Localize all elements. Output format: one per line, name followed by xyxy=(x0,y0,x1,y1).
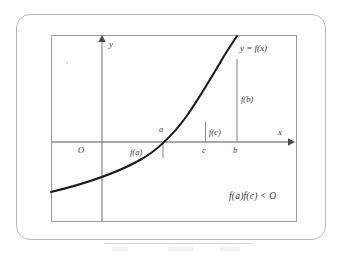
value-label-fa: f(a) xyxy=(130,148,142,157)
x-axis-label: x xyxy=(278,128,282,137)
point-label-c: c xyxy=(202,146,206,155)
curve-equation-label: y = f(x) xyxy=(240,44,267,53)
x-axis-arrow-icon xyxy=(288,138,295,146)
point-label-b: b xyxy=(233,146,237,155)
scan-artifact-smudge xyxy=(220,247,240,251)
scan-artifact-line xyxy=(104,243,254,244)
value-label-fb: f(b) xyxy=(241,95,253,104)
figure-drawing-layer xyxy=(0,0,342,255)
scan-artifact-smudge xyxy=(168,247,194,251)
function-curve xyxy=(51,36,237,192)
figure-root: y x O a c b f(a) f(c) f(b) y = f(x) f(a)… xyxy=(0,0,342,255)
value-label-fc: f(c) xyxy=(209,128,221,137)
scan-artifact-smudge xyxy=(112,247,128,251)
y-axis-arrow-icon xyxy=(98,35,105,42)
origin-label: O xyxy=(78,146,84,155)
point-label-a: a xyxy=(159,125,163,134)
y-axis-label: y xyxy=(109,40,113,49)
inequality-label: f(a)f(c) < O xyxy=(229,192,276,202)
